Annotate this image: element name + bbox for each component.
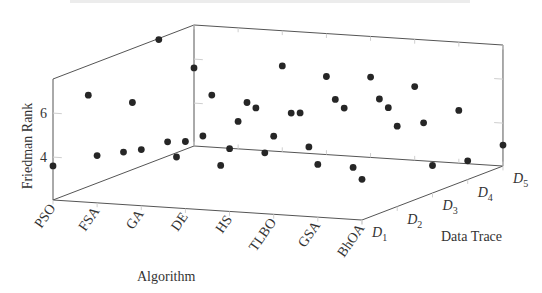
data-points bbox=[50, 36, 507, 183]
data-point bbox=[217, 162, 224, 169]
z-tick-label: 4 bbox=[40, 150, 47, 165]
data-point bbox=[155, 36, 162, 43]
data-point bbox=[270, 133, 277, 140]
z-tick bbox=[53, 157, 62, 158]
x-tick-label: TLBO bbox=[246, 215, 279, 254]
data-point bbox=[200, 133, 207, 140]
data-point bbox=[394, 123, 401, 130]
data-point bbox=[314, 161, 321, 168]
left-top-edge bbox=[53, 25, 194, 79]
y-axis-title: Data Trace bbox=[441, 229, 502, 244]
back-top-edge bbox=[194, 25, 503, 45]
y-tick-label: D2 bbox=[406, 212, 422, 230]
x-tick-label: DE bbox=[168, 210, 191, 234]
x-tick-label: GA bbox=[123, 206, 147, 232]
z-tick-right bbox=[494, 79, 503, 80]
z-tick-label: 6 bbox=[40, 106, 47, 121]
data-point bbox=[244, 99, 251, 106]
data-point bbox=[279, 63, 286, 70]
data-point bbox=[332, 96, 339, 103]
x-axis-title: Algorithm bbox=[137, 269, 195, 284]
y-tick-label: D5 bbox=[512, 171, 528, 189]
data-point bbox=[182, 138, 189, 145]
z-tick-back bbox=[194, 103, 203, 104]
data-point bbox=[50, 163, 57, 170]
x-tick-label: FSA bbox=[76, 203, 104, 233]
data-point bbox=[341, 105, 348, 112]
data-point bbox=[173, 154, 180, 161]
data-point bbox=[455, 107, 462, 114]
data-point bbox=[253, 105, 260, 112]
data-point bbox=[120, 149, 127, 156]
data-point bbox=[359, 176, 366, 183]
x-tick-label: HS bbox=[212, 213, 235, 236]
data-point bbox=[429, 162, 436, 169]
z-tick-labels: 46 bbox=[40, 106, 47, 165]
data-point bbox=[261, 149, 268, 156]
scatter-3d-chart: PSOFSAGADEHSTLBOGSABhOA D1D2D3D4D5 46 Al… bbox=[0, 0, 542, 293]
z-tick bbox=[53, 113, 62, 114]
axis-ticks bbox=[53, 25, 503, 224]
data-point bbox=[138, 146, 145, 153]
data-point bbox=[85, 92, 92, 99]
data-point bbox=[306, 144, 313, 151]
z-tick-back bbox=[194, 59, 203, 60]
y-tick-label: D3 bbox=[442, 198, 458, 216]
z-axis-title: Friedman Rank bbox=[20, 103, 35, 190]
x-tick-label: BhOA bbox=[334, 220, 368, 259]
data-point bbox=[164, 138, 171, 145]
data-point bbox=[411, 83, 418, 90]
data-point bbox=[323, 73, 330, 80]
data-point bbox=[385, 104, 392, 111]
y-tick-label: D4 bbox=[477, 185, 493, 203]
y-tick-label: D1 bbox=[371, 225, 387, 243]
z-tick-right bbox=[494, 123, 503, 124]
back-floor-edge bbox=[194, 146, 503, 166]
data-point bbox=[288, 110, 295, 117]
data-point bbox=[420, 119, 427, 126]
data-point bbox=[191, 65, 198, 72]
data-point bbox=[464, 157, 471, 164]
data-point bbox=[297, 110, 304, 117]
data-point bbox=[367, 74, 374, 81]
data-point bbox=[500, 142, 507, 149]
data-point bbox=[226, 145, 233, 152]
data-point bbox=[208, 92, 215, 99]
data-point bbox=[94, 152, 101, 159]
data-point bbox=[129, 99, 136, 106]
plot-frame bbox=[53, 25, 503, 220]
x-tick-label: PSO bbox=[31, 201, 58, 231]
data-point bbox=[350, 164, 357, 171]
data-point bbox=[235, 118, 242, 125]
data-point bbox=[376, 96, 383, 103]
x-tick-label: GSA bbox=[295, 218, 324, 250]
